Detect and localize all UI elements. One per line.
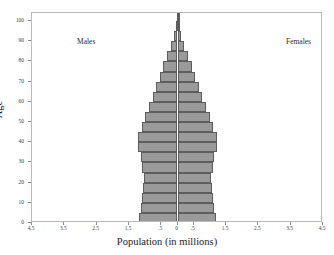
bar-females-0-4	[178, 213, 216, 221]
bar-males-50-54	[145, 112, 177, 122]
bar-females-45-49	[178, 122, 214, 132]
x-tick-label: 4.5	[28, 225, 35, 231]
bar-females-55-59	[178, 102, 206, 112]
y-tick-mark	[28, 40, 31, 41]
bar-females-75-79	[178, 61, 192, 71]
bar-males-0-4	[139, 213, 177, 221]
y-tick-label: 0	[21, 219, 24, 225]
y-tick-mark	[28, 141, 31, 142]
y-tick-label: 40	[19, 138, 24, 144]
bar-females-80-84	[178, 51, 189, 61]
y-tick-mark	[28, 20, 31, 21]
plot-area: Males Females	[31, 12, 322, 222]
y-tick-mark	[28, 81, 31, 82]
y-axis-title: Age	[0, 101, 4, 119]
x-tick-label: 2.5	[92, 225, 99, 231]
bar-females-100+	[178, 13, 180, 21]
bar-males-5-9	[141, 203, 178, 213]
bar-males-60-64	[153, 92, 178, 102]
y-tick-label: 50	[19, 118, 24, 124]
y-tick-mark	[28, 60, 31, 61]
bar-males-65-69	[156, 82, 177, 92]
x-tick-label: 3.5	[60, 225, 67, 231]
y-tick-label: 100	[16, 17, 24, 23]
bar-males-70-74	[160, 72, 178, 82]
bar-females-85-89	[178, 41, 184, 51]
group-label-females: Females	[286, 37, 311, 46]
bar-females-15-19	[178, 183, 212, 193]
x-tick-label: 1.5	[222, 225, 229, 231]
x-tick-label: .5	[191, 225, 195, 231]
y-tick-label: 70	[19, 78, 24, 84]
group-label-males: Males	[77, 37, 95, 46]
y-tick-label: 10	[19, 199, 24, 205]
bar-females-70-74	[178, 72, 196, 82]
bar-females-35-39	[178, 142, 217, 152]
y-tick-mark	[28, 182, 31, 183]
bar-males-45-49	[142, 122, 178, 132]
bar-females-10-14	[178, 193, 213, 203]
y-tick-mark	[28, 161, 31, 162]
x-axis-title: Population (in millions)	[0, 236, 334, 247]
y-tick-mark	[28, 121, 31, 122]
bar-females-5-9	[178, 203, 215, 213]
bar-females-25-29	[178, 162, 213, 172]
bar-females-20-24	[178, 173, 212, 183]
bar-females-30-34	[178, 152, 215, 162]
bar-females-60-64	[178, 92, 203, 102]
bar-females-90-94	[178, 31, 181, 41]
x-tick-label: 2.5	[254, 225, 261, 231]
x-tick-label: 4.5	[319, 225, 326, 231]
bar-males-55-59	[149, 102, 177, 112]
bar-males-10-14	[142, 193, 177, 203]
y-tick-mark	[28, 202, 31, 203]
bar-males-40-44	[138, 132, 177, 142]
bar-females-40-44	[178, 132, 217, 142]
bar-males-80-84	[167, 51, 178, 61]
bar-males-30-34	[141, 152, 178, 162]
bar-males-20-24	[144, 173, 178, 183]
bar-males-35-39	[138, 142, 177, 152]
y-tick-label: 20	[19, 179, 24, 185]
y-tick-mark	[28, 222, 31, 223]
x-tick-label: .5	[158, 225, 162, 231]
plot-inner	[32, 13, 321, 221]
population-pyramid-figure: Males Females 4.53.52.51.5.50.51.52.53.5…	[0, 0, 334, 255]
bar-females-50-54	[178, 112, 210, 122]
x-tick-label: 3.5	[286, 225, 293, 231]
x-tick-label: 0	[175, 225, 178, 231]
bar-males-25-29	[142, 162, 177, 172]
y-tick-label: 80	[19, 57, 24, 63]
x-tick-label: 1.5	[125, 225, 132, 231]
y-tick-label: 30	[19, 158, 24, 164]
bar-females-65-69	[178, 82, 199, 92]
y-tick-label: 90	[19, 37, 24, 43]
bar-females-95-99	[178, 21, 180, 31]
y-tick-label: 60	[19, 98, 24, 104]
bar-males-15-19	[143, 183, 177, 193]
y-tick-mark	[28, 101, 31, 102]
bar-males-75-79	[163, 61, 177, 71]
